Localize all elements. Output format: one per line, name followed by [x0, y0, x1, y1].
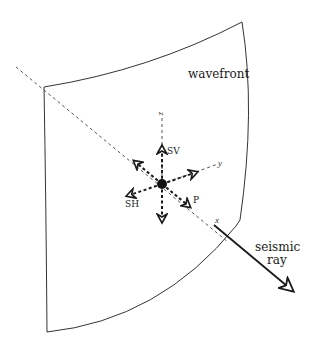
p-label: P: [193, 195, 199, 205]
sh-label: SH: [125, 199, 139, 209]
ray-axis-dashed: [16, 67, 228, 242]
y-axis-label: y: [217, 158, 222, 168]
ray-label: ray: [267, 253, 287, 267]
wavefront-label: wavefront: [188, 67, 249, 81]
seismic-label: seismic: [255, 240, 300, 254]
sv-label: SV: [167, 146, 180, 156]
particle-dot: [157, 179, 167, 189]
p-arrow-back: [134, 161, 162, 184]
wavefront-diagram: wavefront seismic ray z y x SV SH P: [0, 0, 313, 346]
p-arrow-forward: [162, 184, 190, 207]
sh-arrow-left: [127, 184, 162, 196]
x-axis-label: x: [214, 215, 219, 225]
z-axis-label: z: [157, 111, 167, 116]
